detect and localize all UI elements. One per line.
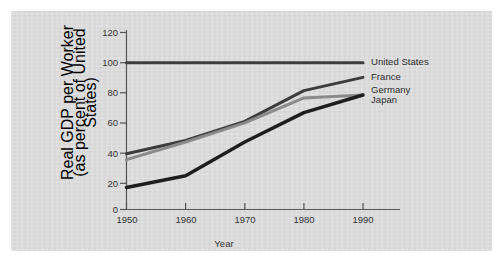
x-axis-title: Year xyxy=(0,238,503,249)
y-axis-ticks xyxy=(120,33,127,210)
xtick-label-1980: 1980 xyxy=(284,214,324,225)
xtick-label-1960: 1960 xyxy=(166,214,206,225)
legend-label-united-states: United States xyxy=(371,56,429,67)
chart-screenshot: 120 100 80 60 40 20 0 1950 1960 1970 198… xyxy=(0,0,503,262)
x-axis-ticks xyxy=(127,203,364,210)
legend-label-france: France xyxy=(371,71,401,82)
series-line-japan xyxy=(127,95,364,187)
data-series-group xyxy=(127,63,364,188)
xtick-label-1970: 1970 xyxy=(225,214,265,225)
xtick-label-1950: 1950 xyxy=(107,214,147,225)
legend-label-japan: Japan xyxy=(371,94,397,105)
xtick-label-1990: 1990 xyxy=(343,214,383,225)
y-axis-title-line-2: (as percent of United States) xyxy=(74,20,97,185)
